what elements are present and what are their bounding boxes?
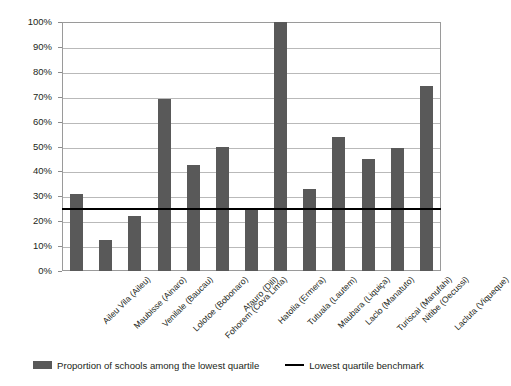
bar bbox=[274, 22, 287, 271]
bar bbox=[420, 86, 433, 272]
y-tick-label: 60% bbox=[33, 117, 52, 127]
legend-bar-swatch-icon bbox=[33, 361, 52, 369]
bar bbox=[70, 194, 83, 271]
bar bbox=[245, 208, 258, 271]
y-tick-label: 40% bbox=[33, 166, 52, 176]
bar bbox=[158, 99, 171, 271]
y-tick-label: 90% bbox=[33, 42, 52, 52]
legend-entry-benchmark: Lowest quartile benchmark bbox=[285, 360, 424, 371]
legend-line-swatch-icon bbox=[285, 364, 304, 366]
legend-bar-label: Proportion of schools among the lowest q… bbox=[57, 360, 259, 371]
legend-entry-bars: Proportion of schools among the lowest q… bbox=[33, 360, 259, 371]
bar bbox=[362, 159, 375, 271]
bar bbox=[128, 216, 141, 271]
legend-line-label: Lowest quartile benchmark bbox=[309, 360, 424, 371]
bar bbox=[187, 165, 200, 271]
y-tick-label: 100% bbox=[28, 17, 52, 27]
bars-layer bbox=[62, 22, 441, 271]
bar bbox=[332, 137, 345, 271]
chart-legend: Proportion of schools among the lowest q… bbox=[0, 356, 457, 374]
y-tick-label: 50% bbox=[33, 142, 52, 152]
y-tick-label: 10% bbox=[33, 241, 52, 251]
y-tick-label: 70% bbox=[33, 92, 52, 102]
y-tick-label: 30% bbox=[33, 191, 52, 201]
y-tick-label: 0% bbox=[38, 266, 52, 276]
y-axis: 0%10%20%30%40%50%60%70%80%90%100% bbox=[0, 0, 58, 300]
bar bbox=[303, 189, 316, 271]
y-tick-label: 20% bbox=[33, 216, 52, 226]
x-axis: Aileu Vila (Aileu)Maubisse (Ainaro)Venil… bbox=[62, 271, 441, 349]
y-tick-label: 80% bbox=[33, 67, 52, 77]
benchmark-line bbox=[62, 208, 441, 210]
bar bbox=[99, 240, 112, 271]
